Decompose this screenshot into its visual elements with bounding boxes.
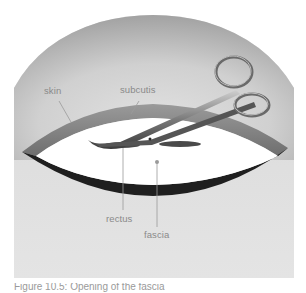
figure-caption: Figure 10.5: Opening of the fascia [14,283,165,293]
incision-diagram [0,0,306,293]
subcutis-label: subcutis [120,85,156,95]
right-fascia-incision [159,141,201,147]
fascia-pointer-dot [155,160,159,164]
skin-label: skin [44,86,61,96]
figure-caption-text: Figure 10.5: Opening of the fascia [14,283,165,292]
anatomical-illustration: skin subcutis rectus fascia Figure 10.5:… [0,0,306,293]
fascia-label: fascia [144,230,169,240]
rectus-label: rectus [106,214,132,224]
